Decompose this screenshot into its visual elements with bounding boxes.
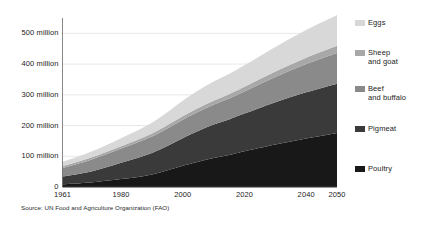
legend-swatch-icon — [355, 86, 365, 92]
legend-swatch-icon — [355, 126, 365, 132]
y-tick-label: 300 million — [0, 90, 59, 99]
x-tick-label: 2020 — [224, 190, 264, 199]
legend-item-sheep-and-goat[interactable]: Sheep and goat — [355, 48, 398, 66]
x-tick-label: 1961 — [43, 190, 83, 199]
legend-label: Poultry — [368, 164, 392, 173]
legend-label: Sheep and goat — [368, 48, 398, 66]
x-tick-label: 2050 — [317, 190, 357, 199]
legend-label: Pigmeat — [368, 124, 396, 133]
legend-item-pigmeat[interactable]: Pigmeat — [355, 124, 396, 133]
x-tick-label: 1980 — [101, 190, 141, 199]
y-tick-label: 400 million — [0, 59, 59, 68]
legend-swatch-icon — [355, 20, 365, 26]
legend-item-poultry[interactable]: Poultry — [355, 164, 392, 173]
x-tick-label: 2000 — [163, 190, 203, 199]
y-tick-label: 500 million — [0, 28, 59, 37]
legend-swatch-icon — [355, 50, 365, 56]
y-tick-label: 100 million — [0, 151, 59, 160]
source-note: Source: UN Food and Agriculture Organiza… — [21, 204, 169, 211]
stacked-area-chart: 0100 million200 million300 million400 mi… — [0, 0, 425, 225]
y-tick-label: 200 million — [0, 121, 59, 130]
legend-label: Beef and buffalo — [368, 84, 406, 102]
area-bands — [63, 15, 338, 187]
legend-item-eggs[interactable]: Eggs — [355, 18, 386, 27]
legend-item-beef-and-buffalo[interactable]: Beef and buffalo — [355, 84, 406, 102]
legend-label: Eggs — [368, 18, 386, 27]
legend-swatch-icon — [355, 166, 365, 172]
